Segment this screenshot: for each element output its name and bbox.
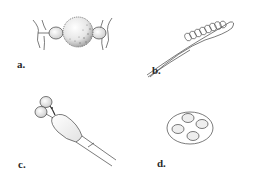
illustration-canvas bbox=[0, 0, 253, 179]
panel-label-d: d. bbox=[157, 158, 166, 169]
panel-d-drawing bbox=[167, 112, 213, 144]
panel-label-b: b. bbox=[152, 65, 161, 76]
panel-label-c: c. bbox=[18, 159, 26, 170]
panel-label-a: a. bbox=[17, 59, 25, 70]
panel-c-drawing bbox=[35, 97, 116, 167]
panel-a-drawing bbox=[33, 17, 112, 50]
figure-plate: a. b. c. d. bbox=[0, 0, 253, 179]
